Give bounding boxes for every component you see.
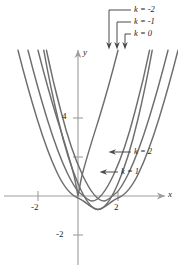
x-tick-label-neg2: -2 — [31, 203, 39, 212]
callout-label-k-2: k = 2 — [134, 147, 152, 156]
parabola-family-figure: y x -2 2 4 -2 k = -2 k = -1 k = 0 k = 2 … — [0, 0, 178, 265]
callout-label-k-neg-2: k = -2 — [134, 5, 155, 14]
y-tick-label-neg2: -2 — [56, 230, 64, 239]
callout-label-k-neg-1: k = -1 — [134, 17, 155, 26]
leader-k-neg-1 — [117, 22, 131, 44]
top-callout-leaders-group — [106, 10, 131, 50]
parabola-k-neg-1 — [28, 50, 150, 201]
leader-k-0 — [125, 34, 131, 44]
axes-group — [4, 50, 165, 265]
callout-label-k-0: k = 0 — [134, 29, 152, 38]
callout-label-k-1: k = 1 — [121, 167, 139, 176]
x-tick-label-pos2: 2 — [114, 203, 119, 212]
plot-canvas — [0, 0, 178, 265]
parabola-k-1 — [47, 50, 169, 201]
y-axis-label: y — [83, 48, 87, 57]
x-axis-label: x — [168, 190, 172, 199]
leader-k-neg-2 — [109, 10, 131, 44]
y-tick-label-4: 4 — [62, 112, 67, 121]
parabola-curves-group — [18, 50, 178, 209]
